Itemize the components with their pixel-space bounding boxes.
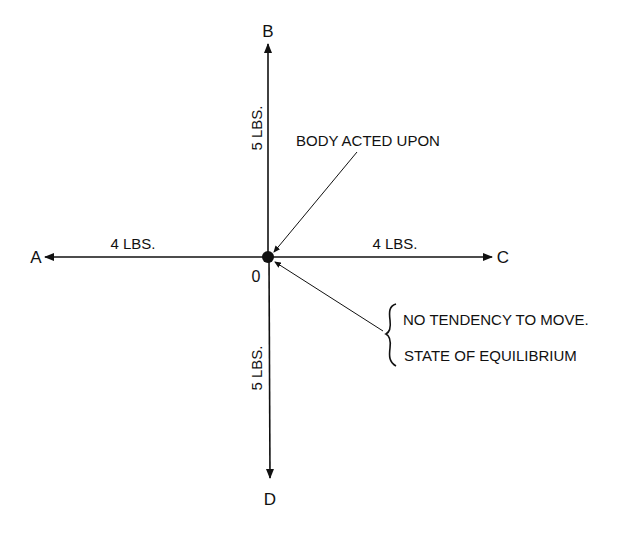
point-label-d: D	[264, 490, 276, 509]
point-label-b: B	[262, 22, 273, 41]
force-label-right: 4 LBS.	[372, 235, 417, 252]
point-label-c: C	[497, 248, 509, 267]
origin-label: 0	[252, 268, 261, 285]
body-acted-upon-label: BODY ACTED UPON	[296, 132, 440, 149]
body-point	[262, 251, 274, 263]
force-label-up: 5 LBS.	[248, 105, 265, 150]
brace-icon	[386, 304, 396, 366]
point-label-a: A	[30, 248, 42, 267]
equilibrium-label: STATE OF EQUILIBRIUM	[404, 347, 577, 364]
force-label-down: 5 LBS.	[248, 345, 265, 390]
body-leader-line	[274, 152, 357, 252]
equilibrium-leader-line	[275, 262, 383, 331]
force-equilibrium-diagram: B A C D 0 5 LBS. 5 LBS. 4 LBS. 4 LBS. BO…	[0, 0, 631, 541]
force-label-left: 4 LBS.	[110, 235, 155, 252]
no-tendency-label: NO TENDENCY TO MOVE.	[403, 311, 589, 328]
force-vector-d	[269, 257, 270, 478]
